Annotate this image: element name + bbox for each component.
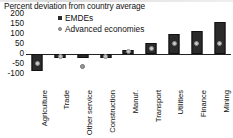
x-tick-label: Manuf. <box>132 90 140 136</box>
chart-title: Percent deviation from country average <box>4 2 145 11</box>
y-tick-label: -50 <box>12 60 24 68</box>
bar-mining <box>214 22 225 54</box>
x-tick-label: Agriculture <box>41 90 49 136</box>
bars-group <box>26 14 231 88</box>
plot-area <box>26 14 231 88</box>
x-tick-label: Mining <box>223 90 231 136</box>
bar-group <box>49 14 72 88</box>
bar-group <box>117 14 140 88</box>
chart-figure: Percent deviation from country average E… <box>0 0 233 138</box>
marker-other-service <box>80 64 85 69</box>
y-tick-label: 100 <box>10 30 24 38</box>
x-tick-label: Other service <box>86 90 94 136</box>
bar-other-service <box>77 54 88 58</box>
y-tick-label: 200 <box>10 10 24 18</box>
marker-utilities <box>172 41 177 46</box>
marker-transport <box>149 46 154 51</box>
x-tick-label: Utilities <box>177 90 185 136</box>
marker-agriculture <box>35 61 40 66</box>
bar-group <box>94 14 117 88</box>
bar-group <box>185 14 208 88</box>
y-tick-label: -100 <box>8 70 24 78</box>
bar-group <box>208 14 231 88</box>
marker-trade <box>58 54 63 59</box>
bar-group <box>72 14 95 88</box>
y-tick-label: 0 <box>19 50 24 58</box>
x-tick-label: Finance <box>200 90 208 136</box>
x-tick-label: Transport <box>155 90 163 136</box>
bar-group <box>26 14 49 88</box>
y-axis: 200150100500-50-100 <box>0 12 25 90</box>
x-tick-label: Trade <box>63 90 71 136</box>
x-axis-labels: AgricultureTradeOther serviceConstructio… <box>26 90 231 138</box>
bar-group <box>140 14 163 88</box>
x-tick-label: Construction <box>109 90 117 136</box>
y-tick-label: 50 <box>15 40 24 48</box>
y-tick-label: 150 <box>10 20 24 28</box>
bar-group <box>163 14 186 88</box>
